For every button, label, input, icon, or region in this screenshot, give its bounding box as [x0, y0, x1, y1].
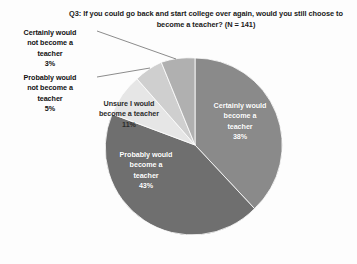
- slice-label-probably-would-value: 43%: [139, 181, 153, 190]
- callout-certainly-would-not-line-2: not become a: [27, 38, 73, 47]
- callout-probably-would-not-line-1: Probably would: [24, 73, 77, 82]
- slice-label-probably-would-line-2: become a: [130, 160, 163, 169]
- slice-label-probably-would-line-1: Probably would: [120, 150, 173, 159]
- slice-label-probably-would: Probably would become a teacher 43%: [105, 150, 187, 192]
- slice-label-unsure: Unsure I would become a teacher 11%: [93, 99, 165, 130]
- pie-chart-figure: Q3: If you could go back and start colle…: [0, 0, 357, 264]
- slice-label-certainly-would-value: 38%: [233, 132, 247, 141]
- slice-label-probably-would-line-3: teacher: [133, 171, 158, 180]
- callout-certainly-would-not-value: 3%: [45, 59, 55, 68]
- slice-label-unsure-line-1: Unsure I would: [104, 99, 155, 108]
- callout-certainly-would-not-line-1: Certainly would: [24, 28, 77, 37]
- slice-label-certainly-would-line-3: teacher: [227, 122, 252, 131]
- slice-label-unsure-line-2: become a teacher: [99, 109, 159, 118]
- callout-certainly-would-not: Certainly would not become a teacher 3%: [4, 28, 96, 70]
- callout-probably-would-not-line-3: teacher: [37, 94, 62, 103]
- slice-label-certainly-would-line-2: become a: [224, 111, 257, 120]
- slice-label-certainly-would: Certainly would become a teacher 38%: [200, 101, 280, 143]
- callout-probably-would-not-value: 5%: [45, 104, 55, 113]
- leader-line-certainly-would-not: [97, 31, 176, 59]
- callout-probably-would-not-line-2: not become a: [27, 83, 73, 92]
- callout-certainly-would-not-line-3: teacher: [37, 49, 62, 58]
- callout-probably-would-not: Probably would not become a teacher 5%: [4, 73, 96, 115]
- slice-label-certainly-would-line-1: Certainly would: [214, 101, 267, 110]
- slice-label-unsure-value: 11%: [122, 120, 136, 129]
